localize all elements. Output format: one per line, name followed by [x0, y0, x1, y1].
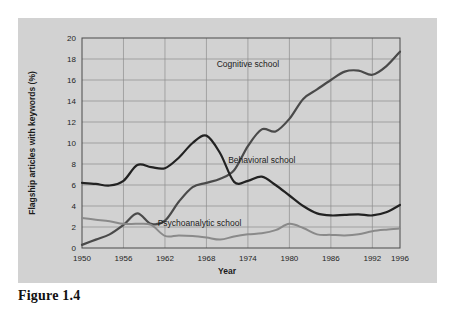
y-tick-12: 12	[67, 118, 76, 127]
x-tick-1974: 1974	[239, 254, 257, 263]
y-axis-tick-labels: 02468101214161820	[67, 34, 76, 253]
figure-caption: Figure 1.4	[18, 288, 80, 304]
y-tick-2: 2	[72, 223, 77, 232]
x-tick-1962: 1962	[156, 254, 174, 263]
x-tick-1992: 1992	[363, 254, 381, 263]
x-tick-1956: 1956	[115, 254, 133, 263]
x-tick-1968: 1968	[198, 254, 216, 263]
y-tick-18: 18	[67, 55, 76, 64]
horizontal-gridlines	[82, 59, 400, 227]
figure-card: 02468101214161820 1950195619621968197419…	[18, 18, 437, 283]
series-label-psychoanalytic-school: Psychoanalytic school	[158, 218, 242, 228]
y-tick-14: 14	[67, 97, 76, 106]
x-axis-tick-labels: 195019561962196819741980198619921996	[73, 254, 409, 263]
series-line-behavioral-school	[82, 135, 400, 215]
y-tick-20: 20	[67, 34, 76, 43]
series-line-cognitive-school	[82, 52, 400, 245]
y-tick-8: 8	[72, 160, 77, 169]
y-tick-6: 6	[72, 181, 77, 190]
x-tick-1950: 1950	[73, 254, 91, 263]
y-tick-10: 10	[67, 139, 76, 148]
x-tick-1986: 1986	[322, 254, 340, 263]
x-tick-1980: 1980	[280, 254, 298, 263]
x-tick-1996: 1996	[391, 254, 409, 263]
figure-root: 02468101214161820 1950195619621968197419…	[0, 0, 455, 312]
y-tick-0: 0	[72, 244, 77, 253]
series-label-behavioral-school: Behavioral school	[228, 155, 295, 165]
line-chart: 02468101214161820 1950195619621968197419…	[18, 18, 437, 283]
series-group	[82, 52, 400, 245]
y-tick-4: 4	[72, 202, 77, 211]
y-axis-title: Flagship articles with keywords (%)	[27, 71, 37, 215]
series-label-cognitive-school: Cognitive school	[217, 59, 279, 69]
y-tick-16: 16	[67, 76, 76, 85]
x-axis-title: Year	[218, 266, 237, 276]
